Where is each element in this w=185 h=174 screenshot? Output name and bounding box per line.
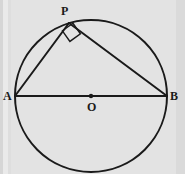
point-label-b: B: [170, 90, 178, 102]
point-label-a: A: [3, 90, 12, 102]
segment-chord-ap: [15, 23, 69, 96]
point-label-p: P: [61, 5, 68, 17]
geometry-figure: A B P O: [0, 0, 185, 174]
point-label-o: O: [87, 101, 96, 113]
segment-chord-pb: [69, 23, 167, 96]
center-point-dot: [89, 94, 93, 98]
circle-diagram-svg: [0, 0, 185, 174]
